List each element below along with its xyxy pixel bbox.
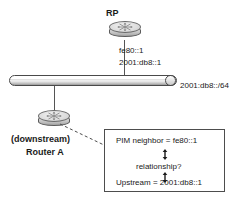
rp-link-local-address: fe80::1 xyxy=(119,47,143,55)
network-diagram-canvas: RP fe80::1 2001:db8::1 2001:db8::/ xyxy=(0,0,243,212)
callout-upstream-line: Upstream = 2001:db8::1 xyxy=(116,179,202,187)
ethernet-bus-icon xyxy=(9,75,177,86)
double-headed-arrow-icon xyxy=(160,149,169,160)
rp-router-icon xyxy=(109,21,141,40)
callout-relationship-question: relationship? xyxy=(136,163,181,171)
ethernet-bus-cap xyxy=(165,75,176,86)
segment-prefix-label: 2001:db8::/64 xyxy=(180,82,229,90)
router-arrows-icon xyxy=(109,21,141,33)
pim-relationship-callout-box: PIM neighbor = fe80::1 relationship? Ups… xyxy=(104,129,225,192)
callout-leader-line xyxy=(58,120,108,150)
rp-global-address: 2001:db8::1 xyxy=(119,59,161,67)
rp-node-title: RP xyxy=(106,9,119,18)
callout-pim-neighbor-line: PIM neighbor = fe80::1 xyxy=(116,137,197,145)
